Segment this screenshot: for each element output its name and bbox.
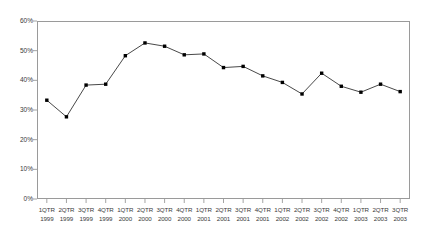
x-axis-labels: 1QTR19992QTR19993QTR19994QTR19991QTR2000… — [0, 0, 430, 236]
line-chart: 60%50%40%30%20%10%0% 1QTR19992QTR19993QT… — [0, 0, 430, 236]
x-axis-tick-label: 3QTR2003 — [383, 206, 417, 223]
